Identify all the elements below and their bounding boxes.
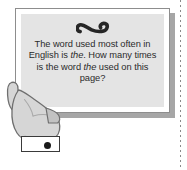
question-segment-1-italic: the	[70, 50, 83, 60]
wrist-cuff-band	[21, 136, 60, 152]
infinity-squiggle-ornament	[76, 19, 110, 37]
illustration-scene: The word used most often in English is t…	[0, 0, 187, 170]
hand-gripping-sign	[2, 78, 82, 170]
dotted-trim-line	[180, 0, 181, 170]
cuff-dot-icon	[44, 142, 51, 149]
question-segment-3-italic: the	[84, 62, 97, 72]
